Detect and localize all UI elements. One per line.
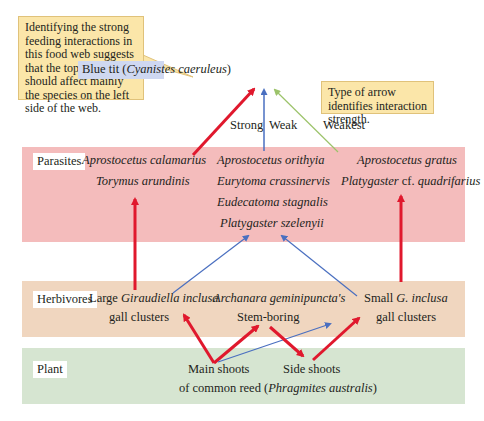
legend-callout: Type of arrow identifies interaction str… <box>321 81 434 114</box>
parasite: Aprostocetus calamarius <box>82 153 206 168</box>
parasite: Platygaster szelenyii <box>220 216 324 231</box>
legend-weak: Weak <box>269 118 297 133</box>
parasite: Aprostocetus gratus <box>357 153 457 168</box>
herbivore-large-galls: Large Giraudiella inclusa <box>89 291 219 306</box>
herbivore-large-galls-line2: gall clusters <box>109 310 169 325</box>
level-label-parasites: Parasites <box>33 153 85 170</box>
level-label-plant: Plant <box>33 361 67 378</box>
plant-main-shoots: Main shoots <box>188 362 249 377</box>
legend-weakest: Weakest <box>323 118 365 133</box>
top-predator-label: Blue tit (Cyanistes caeruleus) <box>82 62 231 77</box>
parasite: Torymus arundinis <box>96 174 190 189</box>
plant-species: of common reed (Phragmites australis) <box>179 381 377 396</box>
herbivore-stem-borer: Archanara geminipuncta's <box>213 291 345 306</box>
legend-strong: Strong <box>230 118 263 133</box>
herbivore-small-galls-line2: gall clusters <box>376 310 436 325</box>
parasite: Aprostocetus orithyia <box>217 153 325 168</box>
plant-side-shoots: Side shoots <box>283 362 340 377</box>
interpretation-callout: Identifying the strong feeding interacti… <box>18 16 144 100</box>
herbivore-stem-borer-line2: Stem-boring <box>237 310 300 325</box>
herbivore-small-galls: Small G. inclusa <box>364 291 448 306</box>
level-label-herbivores: Herbivores <box>33 291 97 308</box>
parasite: Eurytoma crassinervis <box>217 174 330 189</box>
parasite: Platygaster cf. quadrifarius <box>341 174 480 189</box>
parasite: Eudecatoma stagnalis <box>217 195 328 210</box>
